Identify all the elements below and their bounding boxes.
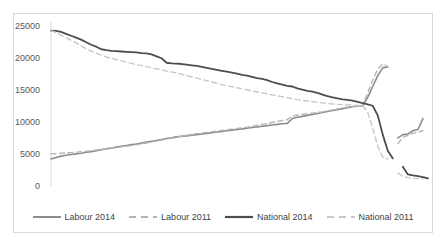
- legend-entry-labour-2014: Labour 2014: [33, 212, 116, 222]
- legend-label-labour-2014: Labour 2014: [65, 212, 116, 222]
- y-axis-tick-15000: 15000: [0, 85, 40, 95]
- y-axis-tick-10000: 10000: [0, 117, 40, 127]
- chart-legend: Labour 2014 Labour 2011 National 2014 Na…: [13, 205, 433, 229]
- legend-swatch-national-2011: [327, 212, 355, 222]
- chart-plot-frame: [13, 13, 433, 233]
- legend-entry-labour-2011: Labour 2011: [129, 212, 211, 222]
- y-axis-tick-5000: 5000: [0, 149, 40, 159]
- legend-entry-national-2014: National 2014: [225, 212, 313, 222]
- legend-label-national-2014: National 2014: [257, 212, 313, 222]
- legend-swatch-national-2014: [225, 212, 253, 222]
- y-axis-tick-20000: 20000: [0, 53, 40, 63]
- y-axis-tick-25000: 25000: [0, 21, 40, 31]
- legend-swatch-labour-2014: [33, 212, 61, 222]
- legend-label-national-2011: National 2011: [359, 212, 414, 222]
- legend-swatch-labour-2011: [129, 212, 157, 222]
- legend-label-labour-2011: Labour 2011: [161, 212, 211, 222]
- y-axis-tick-0: 0: [0, 181, 40, 191]
- chart-figure: 25000 20000 15000 10000 5000 0 Labour 20…: [0, 0, 447, 245]
- legend-entry-national-2011: National 2011: [327, 212, 414, 222]
